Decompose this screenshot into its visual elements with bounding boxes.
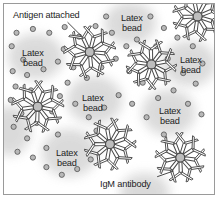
antigen-particle-13 — [21, 57, 26, 62]
igm-fab-prong — [190, 166, 204, 170]
igm-fab-prong — [47, 117, 62, 120]
antigen-particle-10 — [175, 35, 180, 40]
antigen-particle-54 — [44, 165, 49, 170]
antigen-particle-24 — [134, 37, 139, 42]
diagram-canvas — [4, 4, 214, 194]
igm-arm-stem — [22, 106, 33, 111]
igm-arm-stem — [183, 15, 194, 18]
igm-arm-stem — [42, 106, 54, 111]
antigen-particle-31 — [200, 61, 205, 66]
igm-fab-prong — [93, 32, 108, 38]
antigen-particle-49 — [199, 112, 204, 117]
antigen-particle-23 — [124, 44, 129, 49]
antigen-particle-61 — [161, 132, 166, 137]
igm-arm-stem — [94, 142, 105, 145]
antigen-particle-6 — [109, 30, 114, 35]
antigen-particle-58 — [55, 132, 60, 137]
igm-hub — [176, 153, 185, 162]
antigen-particle-0 — [14, 30, 19, 35]
bead-blob-bottom-edge — [120, 173, 170, 194]
antigen-particle-11 — [190, 44, 195, 49]
antigen-particle-29 — [181, 71, 186, 76]
igm-fab-prong — [101, 29, 103, 44]
igm-fab-prong — [184, 139, 198, 144]
igm-arm-stem — [194, 21, 199, 32]
igm-fab-prong — [73, 31, 77, 46]
antigen-particle-5 — [93, 23, 98, 28]
igm-hub — [85, 48, 94, 57]
igm-star-right — [126, 40, 176, 90]
igm-hub — [193, 12, 202, 21]
igm-fab-prong — [43, 89, 58, 93]
igm-fab-prong — [157, 167, 171, 170]
igm-fab-prong — [51, 85, 54, 100]
antigen-particle-45 — [144, 115, 149, 120]
igm-arm-stem — [136, 61, 147, 66]
igm-fab-prong — [117, 129, 132, 132]
igm-fab-prong — [52, 109, 59, 124]
igm-fab-prong — [117, 157, 132, 160]
antigen-particle-39 — [65, 80, 70, 85]
igm-fab-prong — [194, 159, 201, 173]
antigen-particle-1 — [30, 26, 35, 31]
igm-arm-stem — [89, 56, 93, 67]
antigen-particle-12 — [9, 44, 14, 49]
antigen-particle-53 — [30, 155, 35, 160]
antigen-particle-42 — [102, 105, 107, 110]
igm-arm-stem — [36, 111, 39, 122]
igm-fab-prong — [183, 31, 197, 38]
antigen-particle-50 — [11, 124, 16, 129]
antigen-particle-16 — [41, 67, 46, 72]
antigen-particle-56 — [75, 166, 80, 171]
igm-hub — [106, 140, 115, 149]
antigen-particle-57 — [88, 157, 93, 162]
igm-fab-prong — [165, 137, 168, 152]
igm-arm-stem — [165, 157, 176, 162]
antigen-particle-32 — [13, 84, 18, 89]
antigen-particle-48 — [185, 101, 190, 106]
bead-blob-left — [8, 34, 64, 80]
antigen-particle-3 — [62, 24, 67, 29]
igm-arm-stem — [106, 129, 111, 140]
antigen-particle-44 — [130, 101, 135, 106]
antigen-particle-47 — [171, 88, 176, 93]
antigen-particle-55 — [59, 172, 64, 177]
antigen-particle-40 — [73, 101, 78, 106]
antigen-particle-41 — [86, 115, 91, 120]
igm-fab-prong — [185, 26, 189, 40]
igm-arm-stem — [106, 148, 111, 159]
antigen-particle-43 — [116, 93, 121, 98]
figure-panel: Antigen attached IgM antibody LatexbeadL… — [3, 3, 215, 195]
antigen-particle-9 — [161, 25, 166, 30]
bead-blob-mid-right — [142, 89, 196, 135]
igm-fab-prong — [97, 154, 101, 169]
igm-fab-prong — [66, 64, 81, 66]
antigen-particle-59 — [44, 145, 49, 150]
antigen-particle-15 — [25, 72, 30, 77]
igm-fab-prong — [124, 149, 129, 164]
antigen-particle-2 — [47, 30, 52, 35]
antigen-particle-38 — [57, 94, 62, 99]
antigen-particle-30 — [193, 81, 198, 86]
bead-blob-center — [67, 76, 123, 124]
igm-arm-stem — [184, 157, 195, 162]
bead-blob-top-center — [104, 4, 156, 44]
latex-agglutination-figure: Antigen attached IgM antibody LatexbeadL… — [0, 0, 218, 198]
igm-fab-prong — [128, 52, 142, 56]
igm-fab-prong — [105, 52, 113, 66]
igm-fab-prong — [23, 84, 25, 99]
igm-arm-stem — [94, 51, 105, 55]
igm-arm-stem — [179, 162, 182, 173]
igm-hub — [147, 60, 156, 69]
antigen-particle-51 — [25, 136, 30, 141]
antigen-particle-14 — [10, 69, 15, 74]
bead-blob-left-edge — [4, 106, 31, 156]
antigen-particle-46 — [156, 95, 161, 100]
antigen-particle-52 — [15, 149, 20, 154]
igm-fab-prong — [211, 20, 214, 34]
igm-arm-stem — [149, 49, 152, 60]
antigen-particle-8 — [148, 14, 153, 19]
antigen-particle-7 — [104, 14, 109, 19]
igm-fab-prong — [130, 50, 137, 64]
antigen-particle-17 — [55, 59, 60, 64]
